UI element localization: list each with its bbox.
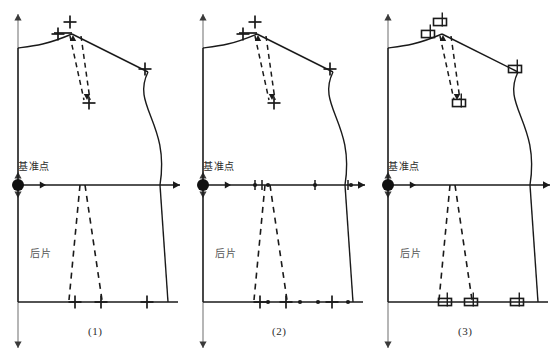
panel-1 [12, 14, 180, 348]
point-dot [316, 300, 320, 304]
panel-1-caption: (1) [88, 325, 102, 337]
panel-2-caption: (2) [272, 325, 286, 337]
pattern-drawing [0, 0, 555, 356]
panel-1-reference-point-label: 基准点 [18, 158, 50, 173]
waist-dart-leg-left [254, 185, 265, 300]
reference-point-dot [382, 179, 394, 191]
panel-3 [382, 13, 550, 349]
panel-3-piece-label: 后片 [400, 245, 421, 260]
armhole-curve [144, 72, 162, 185]
point-dot [298, 300, 302, 304]
panel-2-piece-label: 后片 [215, 245, 236, 260]
panel-2-reference-point-label: 基准点 [203, 158, 235, 173]
waist-dart-leg-right [270, 185, 287, 300]
side-seam-lower [345, 185, 353, 302]
waist-dart-leg-left [439, 185, 450, 300]
side-seam-lower [530, 185, 538, 302]
construction-arrow-1 [199, 342, 206, 349]
shoulder-seam [442, 34, 518, 72]
panel-3-reference-point-label: 基准点 [388, 158, 420, 173]
point-dot [266, 300, 270, 304]
waist-line-arrow [358, 181, 365, 189]
waist-start-arrow [225, 182, 231, 189]
panel-1-piece-label: 后片 [30, 245, 51, 260]
waist-dart-leg-right [455, 185, 472, 300]
construction-arrow-0 [199, 14, 206, 21]
construction-arrow-1 [14, 342, 21, 349]
panel-3-caption: (3) [458, 325, 472, 337]
waist-dart-leg-left [69, 185, 80, 300]
shoulder-seam [72, 34, 148, 72]
construction-arrow-1 [384, 342, 391, 349]
waist-start-arrow [40, 182, 46, 189]
waist-line-arrow [543, 181, 550, 189]
neckline-curve [18, 34, 72, 48]
shoulder-seam [257, 34, 333, 72]
waist-line-arrow [173, 181, 180, 189]
rect-marker [453, 99, 466, 106]
panel-2 [197, 14, 365, 348]
waist-start-arrow [410, 182, 416, 189]
rect-marker [434, 18, 447, 25]
diagram-canvas: (1) (2) (3) 基准点 后片 基准点 后片 基准点 后片 [0, 0, 555, 356]
point-dot [346, 300, 350, 304]
side-seam-lower [160, 185, 168, 302]
armhole-curve [514, 72, 532, 185]
construction-arrow-0 [384, 14, 391, 21]
reference-point-dot [12, 179, 24, 191]
armhole-curve [329, 72, 347, 185]
rect-marker [422, 30, 435, 37]
point-dot [349, 183, 353, 187]
waist-dart-leg-right [85, 185, 102, 300]
construction-arrow-0 [14, 14, 21, 21]
reference-point-dot [197, 179, 209, 191]
neckline-curve [203, 34, 257, 48]
point-dot [266, 183, 270, 187]
